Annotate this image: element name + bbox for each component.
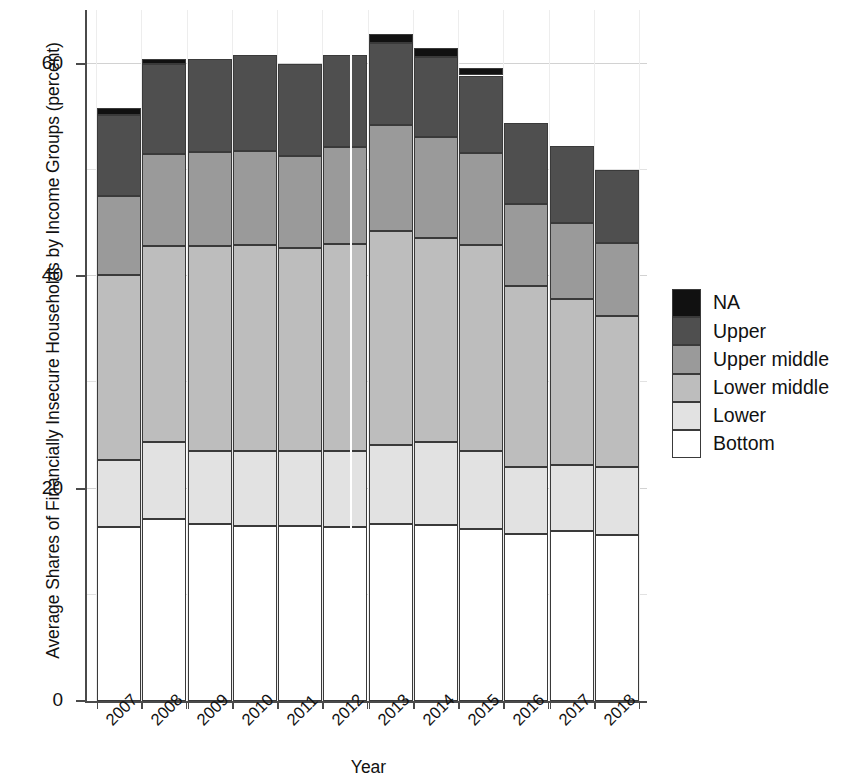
bar-segment-lower-middle[interactable] (369, 231, 413, 446)
bar-segment-lower-middle[interactable] (97, 275, 141, 460)
bar-segment-upper[interactable] (414, 57, 458, 137)
bar-segment-bottom[interactable] (233, 526, 277, 701)
bar-segment-upper-middle[interactable] (233, 151, 277, 246)
y-axis-tick-label: 40 (42, 264, 63, 286)
bar-2017[interactable] (550, 146, 594, 701)
legend-label: Upper (713, 322, 766, 342)
bar-2010[interactable] (233, 55, 277, 701)
bar-2011[interactable] (278, 64, 322, 701)
y-axis-tick: 20 (76, 488, 85, 490)
bar-segment-na[interactable] (414, 48, 458, 58)
bar-2018[interactable] (595, 170, 639, 701)
x-axis-tick (504, 701, 505, 709)
bar-segment-lower-middle[interactable] (504, 286, 548, 468)
bar-segment-lower[interactable] (369, 445, 413, 524)
bar-segment-lower[interactable] (459, 451, 503, 529)
bar-segment-lower-middle[interactable] (550, 299, 594, 466)
x-axis-tick (97, 701, 98, 709)
legend-item-bottom[interactable]: Bottom (672, 430, 829, 458)
bar-2008[interactable] (142, 59, 186, 702)
bar-segment-lower-middle[interactable] (142, 246, 186, 441)
legend-label: Bottom (713, 434, 775, 454)
bar-segment-bottom[interactable] (188, 524, 232, 701)
bar-segment-na[interactable] (97, 108, 141, 114)
bar-2016[interactable] (504, 123, 548, 701)
bar-segment-upper-middle[interactable] (278, 156, 322, 247)
x-axis-tick (278, 701, 279, 709)
y-axis-tick: 60 (76, 63, 85, 65)
bar-segment-bottom[interactable] (97, 527, 141, 701)
y-axis-tick-label: 60 (42, 52, 63, 74)
legend-item-upper-middle[interactable]: Upper middle (672, 345, 829, 373)
bar-segment-upper-middle[interactable] (97, 196, 141, 276)
bar-2015[interactable] (459, 68, 503, 701)
bar-segment-upper[interactable] (323, 55, 367, 146)
bar-segment-lower[interactable] (97, 460, 141, 527)
legend-item-upper[interactable]: Upper (672, 317, 829, 345)
x-axis-title: Year (97, 757, 640, 778)
bar-segment-upper[interactable] (142, 64, 186, 154)
bar-segment-upper-middle[interactable] (188, 152, 232, 247)
bar-segment-upper-middle[interactable] (595, 243, 639, 315)
bar-segment-lower-middle[interactable] (595, 316, 639, 468)
bar-segment-upper[interactable] (550, 146, 594, 224)
bar-segment-upper[interactable] (504, 123, 548, 204)
bar-segment-lower[interactable] (323, 451, 367, 526)
bar-segment-lower[interactable] (188, 451, 232, 523)
bar-segment-na[interactable] (142, 59, 186, 64)
bar-segment-bottom[interactable] (504, 534, 548, 701)
bar-segment-bottom[interactable] (369, 524, 413, 701)
bar-segment-upper[interactable] (97, 115, 141, 196)
bar-segment-upper-middle[interactable] (142, 154, 186, 246)
bar-segment-lower-middle[interactable] (188, 246, 232, 451)
bar-segment-lower[interactable] (504, 467, 548, 534)
scan-artifact-line (350, 55, 352, 555)
bar-segment-upper-middle[interactable] (414, 137, 458, 238)
bar-segment-lower[interactable] (595, 467, 639, 535)
legend-swatch-icon (672, 289, 701, 317)
bar-2012[interactable] (323, 55, 367, 701)
legend-label: Lower middle (713, 378, 829, 398)
bar-2007[interactable] (97, 108, 141, 701)
bar-segment-lower-middle[interactable] (323, 244, 367, 451)
y-axis-tick: 40 (76, 275, 85, 277)
bar-segment-upper[interactable] (233, 55, 277, 151)
bar-segment-upper-middle[interactable] (323, 147, 367, 245)
bar-segment-bottom[interactable] (459, 529, 503, 701)
bar-segment-upper[interactable] (278, 64, 322, 156)
bar-segment-bottom[interactable] (595, 535, 639, 701)
bar-segment-bottom[interactable] (142, 519, 186, 701)
legend-item-lower[interactable]: Lower (672, 402, 829, 430)
bar-segment-lower-middle[interactable] (459, 245, 503, 451)
bar-segment-lower[interactable] (142, 442, 186, 520)
legend-item-lower-middle[interactable]: Lower middle (672, 374, 829, 402)
bar-segment-lower[interactable] (550, 465, 594, 531)
bar-segment-bottom[interactable] (414, 525, 458, 701)
bar-segment-lower[interactable] (233, 451, 277, 525)
bar-segment-na[interactable] (459, 68, 503, 75)
bar-segment-lower[interactable] (278, 451, 322, 525)
bar-segment-upper[interactable] (369, 43, 413, 126)
bar-segment-lower[interactable] (414, 442, 458, 525)
x-axis-tick (459, 701, 460, 709)
bar-segment-bottom[interactable] (323, 527, 367, 701)
bar-segment-lower-middle[interactable] (233, 245, 277, 451)
bar-segment-upper[interactable] (188, 59, 232, 152)
bar-segment-lower-middle[interactable] (414, 238, 458, 442)
bar-segment-upper[interactable] (595, 170, 639, 243)
bar-segment-bottom[interactable] (550, 531, 594, 701)
bar-segment-upper[interactable] (459, 76, 503, 154)
legend-swatch-icon (672, 374, 701, 402)
bar-2014[interactable] (414, 48, 458, 701)
bar-2013[interactable] (369, 34, 413, 701)
bar-segment-upper-middle[interactable] (459, 153, 503, 245)
x-axis-tick (188, 701, 189, 709)
bar-segment-upper-middle[interactable] (550, 223, 594, 298)
bar-segment-lower-middle[interactable] (278, 248, 322, 452)
bar-segment-bottom[interactable] (278, 526, 322, 701)
legend-item-na[interactable]: NA (672, 289, 829, 317)
bar-2009[interactable] (188, 59, 232, 702)
bar-segment-na[interactable] (369, 34, 413, 42)
bar-segment-upper-middle[interactable] (369, 125, 413, 230)
bar-segment-upper-middle[interactable] (504, 204, 548, 286)
